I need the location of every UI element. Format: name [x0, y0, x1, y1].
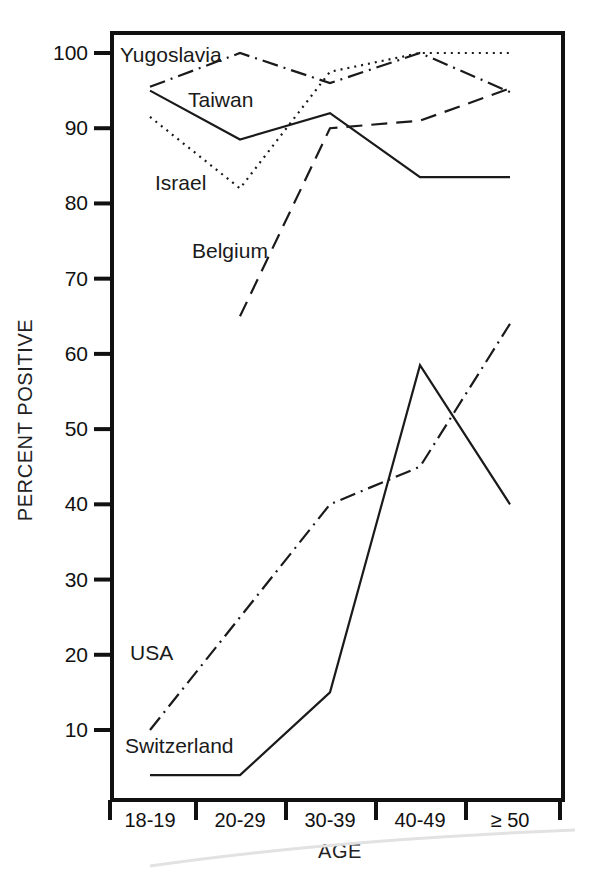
series-label-belgium: Belgium: [192, 239, 268, 262]
series-inline-labels: YugoslaviaTaiwanIsraelBelgiumUSASwitzerl…: [120, 43, 268, 757]
y-tick-label-10: 10: [65, 718, 88, 741]
series-label-yugoslavia: Yugoslavia: [120, 43, 222, 66]
y-tick-label-20: 20: [65, 643, 88, 666]
y-tick-label-70: 70: [65, 267, 88, 290]
x-category-label-3: 40-49: [394, 809, 445, 831]
series-label-israel: Israel: [155, 171, 206, 194]
y-axis-title: PERCENT POSITIVE: [14, 319, 36, 522]
percent-positive-by-age-line-chart: 100908070605040302010 PERCENT POSITIVE 1…: [0, 0, 601, 894]
x-axis-category-labels: 18-1920-2930-3940-49≥ 50: [124, 809, 529, 831]
series-label-usa: USA: [130, 641, 173, 664]
series-line-usa: [150, 324, 510, 730]
x-category-label-1: 20-29: [214, 809, 265, 831]
x-category-label-0: 18-19: [124, 809, 175, 831]
y-axis-ticks: 100908070605040302010: [53, 41, 112, 741]
y-tick-label-50: 50: [65, 417, 88, 440]
y-tick-label-40: 40: [65, 492, 88, 515]
series-label-taiwan: Taiwan: [188, 88, 253, 111]
page-smudge: [150, 830, 575, 866]
plot-frame: [112, 33, 563, 800]
y-tick-label-60: 60: [65, 342, 88, 365]
chart-figure: 100908070605040302010 PERCENT POSITIVE 1…: [0, 0, 601, 894]
x-category-label-4: ≥ 50: [491, 809, 530, 831]
series-line-switzerland: [150, 365, 510, 775]
y-tick-label-30: 30: [65, 568, 88, 591]
y-tick-label-90: 90: [65, 116, 88, 139]
series-label-switzerland: Switzerland: [125, 734, 234, 757]
y-tick-label-80: 80: [65, 191, 88, 214]
series-line-belgium: [240, 88, 510, 316]
x-category-label-2: 30-39: [304, 809, 355, 831]
series-lines-group: [150, 53, 510, 775]
y-tick-label-100: 100: [53, 41, 88, 64]
